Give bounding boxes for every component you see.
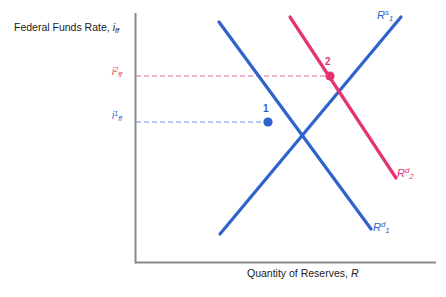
x-axis-title: Quantity of Reserves, R (247, 268, 358, 279)
curve-label-demand-2-subscript: 2 (409, 172, 413, 181)
y-tick-iff2-subscript: ff (118, 71, 122, 78)
y-axis-title-text: Federal Funds Rate, (14, 21, 113, 33)
curve-label-supply-1-subscript: 1 (389, 14, 393, 23)
y-tick-label-iff2: i2ff (112, 66, 122, 78)
y-axis-title-subscript: ff (115, 26, 119, 35)
curve-label-demand-2: Rd2 (397, 167, 414, 181)
curve-label-demand-1-variable: R (373, 221, 381, 233)
curve-label-supply-1: Rs1 (377, 9, 393, 23)
equilibrium-point-1-label: 1 (263, 104, 269, 114)
y-axis-title: Federal Funds Rate, iff (14, 22, 119, 35)
curve-label-demand-1: Rd1 (373, 221, 390, 235)
equilibrium-point-2-label: 2 (325, 57, 331, 67)
x-axis-title-text: Quantity of Reserves, (247, 267, 351, 279)
y-tick-iff1-subscript: ff (118, 115, 122, 122)
curve-label-supply-1-variable: R (377, 9, 385, 21)
equilibrium-point-1-marker (263, 117, 272, 126)
y-tick-label-iff1: i1ff (112, 110, 122, 122)
federal-funds-rate-diagram: Federal Funds Rate, iff Quantity of Rese… (0, 0, 446, 297)
curve-demand-1 (219, 22, 371, 229)
x-axis-title-variable: R (351, 267, 359, 279)
curve-label-demand-1-subscript: 1 (385, 226, 389, 235)
plot-area (0, 0, 446, 297)
curve-label-demand-2-variable: R (397, 167, 405, 179)
equilibrium-point-2-marker (325, 71, 334, 80)
